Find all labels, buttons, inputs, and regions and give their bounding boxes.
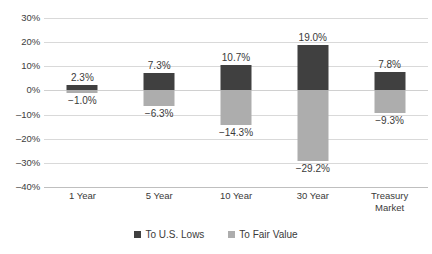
- x-axis-tick-label: 30 Year: [274, 190, 351, 202]
- y-axis-tick-label: –40%: [0, 182, 40, 192]
- x-axis-tick-label-line: Treasury: [351, 190, 428, 202]
- x-axis-tick-label-line: Market: [351, 202, 428, 214]
- y-axis-tick-label: 30%: [0, 13, 40, 23]
- x-axis-tick-label: 10 Year: [198, 190, 275, 202]
- legend-swatch-icon: [228, 231, 235, 238]
- gridline-neg40: [44, 187, 428, 188]
- value-label-negative: −6.3%: [145, 108, 174, 119]
- legend-item[interactable]: To U.S. Lows: [134, 229, 204, 240]
- y-axis-tick-label: –20%: [0, 134, 40, 144]
- x-axis-tick-label-line: 1 Year: [44, 190, 121, 202]
- y-axis-tick-label: –10%: [0, 110, 40, 120]
- x-axis-tick-label-line: 10 Year: [198, 190, 275, 202]
- bar-group[interactable]: 2.3%−1.0%: [44, 18, 121, 187]
- legend-label: To Fair Value: [239, 229, 297, 240]
- x-axis-tick-label: TreasuryMarket: [351, 190, 428, 213]
- y-axis-tick-label: 10%: [0, 61, 40, 71]
- value-label-positive: 10.7%: [222, 52, 250, 63]
- value-label-negative: −29.2%: [296, 163, 330, 174]
- y-axis-tick-label: 0%: [0, 85, 40, 95]
- bar-segment-to-us-lows[interactable]: [220, 65, 251, 91]
- bar-segment-to-fair-value[interactable]: [297, 90, 328, 160]
- bar-chart: 30%20%10%0%–10%–20%–30%–40% 2.3%−1.0%7.3…: [0, 0, 432, 254]
- bar-segment-to-fair-value[interactable]: [144, 90, 175, 105]
- bar-group[interactable]: 19.0%−29.2%: [274, 18, 351, 187]
- bar-group[interactable]: 10.7%−14.3%: [198, 18, 275, 187]
- bar-segment-to-us-lows[interactable]: [374, 72, 405, 91]
- x-axis-tick-label-line: 5 Year: [121, 190, 198, 202]
- y-axis-tick-label: 20%: [0, 37, 40, 47]
- x-axis-tick-label-line: 30 Year: [274, 190, 351, 202]
- y-axis: 30%20%10%0%–10%–20%–30%–40%: [0, 0, 40, 254]
- bar-segment-to-us-lows[interactable]: [297, 45, 328, 91]
- value-label-negative: −9.3%: [375, 115, 404, 126]
- value-label-positive: 7.8%: [378, 59, 401, 70]
- legend-item[interactable]: To Fair Value: [228, 229, 297, 240]
- value-label-positive: 19.0%: [299, 32, 327, 43]
- bar-segment-to-fair-value[interactable]: [374, 90, 405, 112]
- value-label-positive: 7.3%: [148, 60, 171, 71]
- bar-segment-to-fair-value[interactable]: [67, 90, 98, 92]
- value-label-negative: −1.0%: [68, 95, 97, 106]
- value-label-positive: 2.3%: [71, 72, 94, 83]
- bars-layer: 2.3%−1.0%7.3%−6.3%10.7%−14.3%19.0%−29.2%…: [44, 18, 428, 187]
- x-axis: 1 Year5 Year10 Year30 YearTreasuryMarket: [44, 190, 428, 222]
- x-axis-tick-label: 1 Year: [44, 190, 121, 202]
- x-axis-tick-label: 5 Year: [121, 190, 198, 202]
- chart-legend: To U.S. LowsTo Fair Value: [0, 229, 432, 240]
- value-label-negative: −14.3%: [219, 127, 253, 138]
- legend-swatch-icon: [134, 231, 141, 238]
- bar-group[interactable]: 7.3%−6.3%: [121, 18, 198, 187]
- legend-label: To U.S. Lows: [145, 229, 204, 240]
- bar-segment-to-fair-value[interactable]: [220, 90, 251, 125]
- bar-group[interactable]: 7.8%−9.3%: [351, 18, 428, 187]
- y-axis-tick-label: –30%: [0, 158, 40, 168]
- bar-segment-to-us-lows[interactable]: [144, 73, 175, 91]
